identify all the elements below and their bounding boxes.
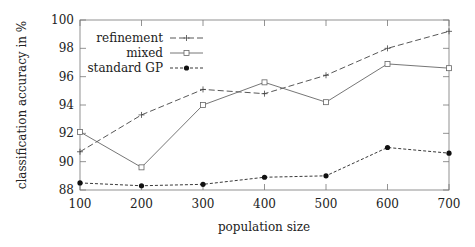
legend-label: standard GP <box>87 61 163 75</box>
legend-label: mixed <box>126 46 163 60</box>
line-chart: 889092949698100 100200300400500600700 re… <box>0 0 475 247</box>
plus-marker-icon <box>200 86 206 92</box>
circle-marker-icon <box>184 65 189 70</box>
circle-marker-icon <box>139 183 144 188</box>
circle-marker-icon <box>200 182 205 187</box>
y-tick-label: 100 <box>51 13 74 27</box>
y-tick-label: 98 <box>59 41 74 55</box>
square-marker-icon <box>139 165 144 170</box>
square-marker-icon <box>184 51 189 56</box>
square-marker-icon <box>324 100 329 105</box>
plus-marker-icon <box>184 35 190 41</box>
circle-marker-icon <box>323 173 328 178</box>
x-axis-label: population size <box>218 220 310 234</box>
circle-marker-icon <box>262 175 267 180</box>
circle-marker-icon <box>385 145 390 150</box>
x-tick-label: 200 <box>130 197 153 211</box>
plus-marker-icon <box>77 149 83 155</box>
y-tick-label: 94 <box>59 98 75 112</box>
square-marker-icon <box>385 61 390 66</box>
x-tick-label: 600 <box>376 197 399 211</box>
legend-item: mixed <box>126 46 203 60</box>
square-marker-icon <box>201 103 206 108</box>
square-marker-icon <box>447 66 452 71</box>
x-tick-label: 400 <box>253 197 276 211</box>
square-marker-icon <box>78 129 83 134</box>
legend-item: standard GP <box>87 61 203 75</box>
plus-marker-icon <box>323 72 329 78</box>
legend: refinementmixedstandard GP <box>87 31 203 75</box>
plus-marker-icon <box>385 45 391 51</box>
series-standard-gp <box>77 145 451 188</box>
y-tick-label: 90 <box>59 155 74 169</box>
series-mixed <box>78 61 452 169</box>
x-tick-label: 500 <box>315 197 338 211</box>
plus-marker-icon <box>446 28 452 34</box>
plus-marker-icon <box>262 91 268 97</box>
legend-label: refinement <box>96 31 163 45</box>
plus-marker-icon <box>139 112 145 118</box>
x-tick-label: 100 <box>69 197 92 211</box>
circle-marker-icon <box>446 151 451 156</box>
y-tick-label: 88 <box>59 183 74 197</box>
y-axis-label: classification accuracy in % <box>15 21 29 190</box>
circle-marker-icon <box>77 180 82 185</box>
square-marker-icon <box>262 80 267 85</box>
x-tick-label: 700 <box>438 197 461 211</box>
y-tick-label: 96 <box>59 70 74 84</box>
legend-item: refinement <box>96 31 203 45</box>
x-tick-label: 300 <box>192 197 215 211</box>
y-tick-label: 92 <box>59 126 74 140</box>
